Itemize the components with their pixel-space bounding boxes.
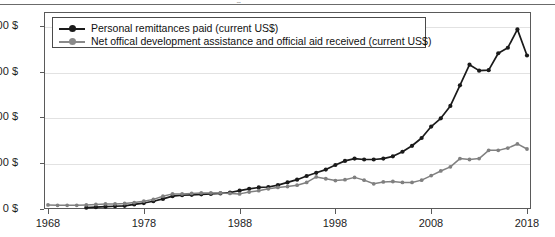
data-point <box>487 148 491 152</box>
data-point <box>247 190 251 194</box>
data-point <box>515 27 519 31</box>
data-point <box>219 191 223 195</box>
data-point <box>467 63 471 67</box>
data-point <box>113 202 117 206</box>
x-tick-label-1998: 1998 <box>310 217 360 229</box>
data-point <box>506 46 510 50</box>
data-point <box>94 203 98 207</box>
data-point <box>496 148 500 152</box>
x-tick-mark-2018 <box>527 209 528 214</box>
y-tick-mark-0 <box>40 209 44 210</box>
x-tick-mark-1998 <box>335 209 336 214</box>
y-tick-label-300: 300 $ <box>0 66 18 77</box>
data-point <box>142 199 146 203</box>
legend-label-remittances: Personal remittances paid (current US$) <box>91 22 278 34</box>
data-point <box>161 194 165 198</box>
data-point <box>439 116 443 120</box>
data-point <box>516 142 520 146</box>
data-point <box>353 175 357 179</box>
x-tick-mark-1978 <box>144 209 145 214</box>
data-point <box>381 180 385 184</box>
data-point <box>362 178 366 182</box>
data-point <box>458 157 462 161</box>
data-point <box>314 171 318 175</box>
x-tick-label-1968: 1968 <box>23 217 73 229</box>
data-point <box>525 53 529 57</box>
data-point <box>238 192 242 196</box>
data-point <box>391 180 395 184</box>
legend-item-remittances: Personal remittances paid (current US$) <box>59 22 419 34</box>
data-point <box>324 177 328 181</box>
data-point <box>295 178 299 182</box>
data-point <box>286 185 290 189</box>
data-point <box>314 175 318 179</box>
data-point <box>75 203 79 207</box>
x-tick-label-2018: 2018 <box>502 217 552 229</box>
data-point <box>429 174 433 178</box>
data-point <box>391 154 395 158</box>
data-point <box>266 187 270 191</box>
data-point <box>123 202 127 206</box>
data-point <box>334 179 338 183</box>
data-point <box>305 174 309 178</box>
data-point <box>362 157 366 161</box>
legend-label-oda: Net offical development assistance and o… <box>91 35 431 47</box>
data-point <box>333 163 337 167</box>
data-point <box>410 181 414 185</box>
data-point <box>401 181 405 185</box>
x-tick-mark-1968 <box>48 209 49 214</box>
data-point <box>429 124 433 128</box>
data-point <box>410 144 414 148</box>
x-tick-label-2008: 2008 <box>406 217 456 229</box>
data-point <box>525 147 529 151</box>
data-point <box>257 189 261 193</box>
data-point <box>400 150 404 154</box>
data-point <box>180 192 184 196</box>
top-horizontal-rule <box>0 4 555 5</box>
data-point <box>381 157 385 161</box>
y-tick-label-400: 400 $ <box>0 20 18 31</box>
data-point <box>190 192 194 196</box>
data-point <box>199 191 203 195</box>
data-point <box>506 146 510 150</box>
x-tick-label-1988: 1988 <box>215 217 265 229</box>
data-point <box>65 203 69 207</box>
legend-marker-remittances-icon <box>59 23 85 34</box>
data-point <box>439 169 443 173</box>
y-tick-mark-200 <box>40 117 44 118</box>
x-tick-mark-2008 <box>431 209 432 214</box>
data-point <box>56 203 60 207</box>
x-tick-mark-1988 <box>240 209 241 214</box>
data-point <box>276 186 280 190</box>
data-point <box>496 51 500 55</box>
data-point <box>324 168 328 172</box>
data-point <box>487 68 491 72</box>
data-point <box>228 192 232 196</box>
y-tick-label-100: 100 $ <box>0 157 18 168</box>
data-point <box>305 181 309 185</box>
series-oda <box>46 142 529 207</box>
data-point <box>477 69 481 73</box>
data-point <box>458 83 462 87</box>
data-point <box>420 178 424 182</box>
y-tick-mark-300 <box>40 72 44 73</box>
data-point <box>132 201 136 205</box>
data-point <box>46 203 50 207</box>
data-point <box>343 178 347 182</box>
y-tick-label-0: 0 $ <box>0 203 18 214</box>
data-point <box>372 182 376 186</box>
data-point <box>420 136 424 140</box>
data-point <box>209 191 213 195</box>
data-point <box>372 157 376 161</box>
data-point <box>285 180 289 184</box>
legend-marker-oda-icon <box>59 36 85 47</box>
data-point <box>448 165 452 169</box>
y-tick-mark-100 <box>40 163 44 164</box>
data-point <box>295 183 299 187</box>
data-point <box>352 157 356 161</box>
data-point <box>151 197 155 201</box>
series-line <box>48 144 527 205</box>
y-tick-label-200: 200 $ <box>0 111 18 122</box>
data-point <box>468 158 472 162</box>
chart-legend: Personal remittances paid (current US$) … <box>52 17 426 48</box>
